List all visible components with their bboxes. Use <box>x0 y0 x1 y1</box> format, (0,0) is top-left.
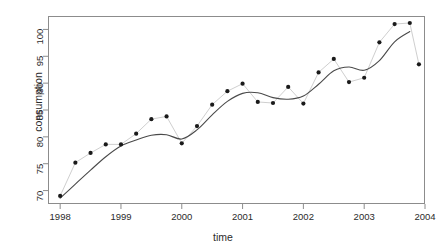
data-point <box>316 70 320 74</box>
chart-figure: 707580859095100 199819992000200120022003… <box>0 0 446 250</box>
data-connector-line <box>60 23 419 196</box>
data-point <box>377 40 381 44</box>
data-point <box>210 103 214 107</box>
x-tick-label: 1998 <box>40 212 80 222</box>
data-point <box>164 114 168 118</box>
data-point <box>271 101 275 105</box>
data-point <box>195 124 199 128</box>
data-point <box>119 142 123 146</box>
data-point <box>180 141 184 145</box>
data-point <box>149 117 153 121</box>
data-point <box>332 57 336 61</box>
x-tick-label: 2004 <box>405 212 445 222</box>
data-point <box>134 132 138 136</box>
y-tick-label: 70 <box>35 190 45 212</box>
data-point <box>240 82 244 86</box>
x-tick-label: 2001 <box>223 212 263 222</box>
data-point <box>393 22 397 26</box>
data-point <box>256 100 260 104</box>
data-point <box>104 142 108 146</box>
data-point <box>408 21 412 25</box>
data-point <box>225 89 229 93</box>
data-point <box>362 76 366 80</box>
y-axis-title: consumption <box>32 42 44 162</box>
x-tick-label: 2002 <box>283 212 323 222</box>
y-tick-label: 75 <box>35 163 45 185</box>
data-point <box>88 151 92 155</box>
data-point-markers <box>58 21 421 198</box>
data-point <box>73 161 77 165</box>
data-point <box>286 85 290 89</box>
data-point <box>58 194 62 198</box>
data-point <box>347 80 351 84</box>
x-tick-label: 1999 <box>101 212 141 222</box>
smooth-trend-line <box>60 32 410 199</box>
x-axis-ticks <box>60 204 425 209</box>
x-tick-label: 2000 <box>162 212 202 222</box>
x-axis-title: time <box>0 231 446 243</box>
x-tick-label: 2003 <box>344 212 384 222</box>
data-point <box>417 62 421 66</box>
data-point <box>301 101 305 105</box>
